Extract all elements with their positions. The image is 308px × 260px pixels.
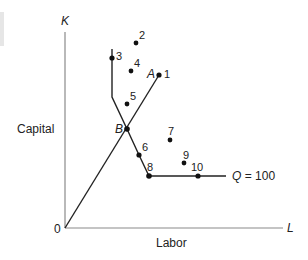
- isoquant-label: Q = 100: [232, 170, 275, 182]
- x-axis-symbol: L: [287, 222, 294, 234]
- point-label-9: 9: [183, 150, 189, 161]
- label-b: B: [115, 123, 123, 135]
- point-label-4: 4: [134, 58, 140, 69]
- point-label-2: 2: [139, 30, 145, 41]
- point-label-3: 3: [116, 51, 122, 62]
- point-label-10: 10: [191, 162, 203, 173]
- isoquant-q-symbol: Q: [232, 169, 241, 183]
- point-6: [136, 152, 141, 157]
- point-8: [146, 173, 152, 179]
- point-b: [124, 126, 130, 132]
- point-label-8: 8: [147, 162, 153, 173]
- point-2: [134, 41, 139, 46]
- point-4: [129, 69, 134, 74]
- point-label-7: 7: [168, 126, 174, 137]
- point-label-1: 1: [164, 69, 170, 80]
- label-a: A: [147, 68, 155, 80]
- point-label-6: 6: [142, 142, 148, 153]
- y-axis-symbol: K: [61, 15, 69, 27]
- point-7: [168, 138, 173, 143]
- y-axis-label: Capital: [17, 123, 54, 135]
- origin-label: 0: [54, 223, 61, 235]
- point-10: [195, 173, 200, 178]
- point-label-5: 5: [130, 91, 136, 102]
- point-1: [156, 72, 161, 77]
- isoquant-value: = 100: [245, 169, 275, 183]
- point-3: [109, 55, 114, 60]
- x-axis-label: Labor: [156, 237, 187, 249]
- point-9: [182, 161, 187, 166]
- point-5: [125, 102, 130, 107]
